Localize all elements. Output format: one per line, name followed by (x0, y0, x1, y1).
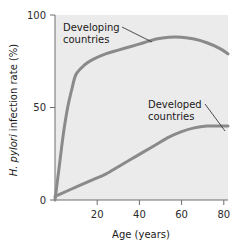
y-axis-title-italic: H. pylori (8, 134, 19, 176)
developing-label-line2: countries (63, 34, 109, 45)
x-tick-label-20: 20 (91, 209, 104, 220)
y-tick-label-100: 100 (27, 10, 46, 21)
developing-label-line1: Developing (63, 22, 120, 33)
y-axis-title: H. pylori infection rate (%) (8, 44, 19, 177)
x-axis-ticks (97, 200, 224, 205)
y-tick-label-0: 0 (40, 195, 46, 206)
chart-figure: 0 50 100 20 40 60 80 Age (years) H. pylo… (0, 0, 244, 247)
x-axis-title: Age (years) (112, 229, 170, 240)
y-axis-title-rest: infection rate (%) (8, 44, 19, 135)
x-tick-label-40: 40 (133, 209, 146, 220)
x-axis-tick-labels: 20 40 60 80 (91, 209, 230, 220)
y-axis-tick-labels: 0 50 100 (27, 10, 46, 206)
developed-label-line1: Developed (148, 99, 202, 110)
developed-label-line2: countries (148, 111, 194, 122)
y-axis-ticks (50, 15, 55, 200)
h-pylori-infection-rate-chart: 0 50 100 20 40 60 80 Age (years) H. pylo… (0, 0, 244, 247)
y-tick-label-50: 50 (33, 102, 46, 113)
x-tick-label-80: 80 (217, 209, 230, 220)
x-tick-label-60: 60 (175, 209, 188, 220)
